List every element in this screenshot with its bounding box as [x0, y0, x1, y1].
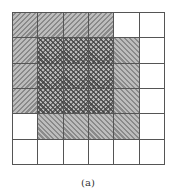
- grid-cell-cross: [64, 38, 89, 63]
- grid-cell-empty: [38, 140, 63, 165]
- grid-cell-back: [114, 114, 139, 139]
- grid-cell-cross: [38, 64, 63, 89]
- grid-cell-fwd: [38, 13, 63, 38]
- grid-cell-empty: [64, 140, 89, 165]
- grid-cell-cross: [89, 89, 114, 114]
- grid-cell-cross: [89, 38, 114, 63]
- grid-cell-empty: [140, 114, 165, 139]
- grid-cell-back: [114, 89, 139, 114]
- grid-cell-back: [114, 38, 139, 63]
- grid-cell-fwd: [13, 38, 38, 63]
- grid-cell-back: [89, 114, 114, 139]
- grid-cell-fwd: [13, 64, 38, 89]
- grid-cell-cross: [38, 89, 63, 114]
- grid-cell-cross: [89, 64, 114, 89]
- grid-cell-empty: [89, 140, 114, 165]
- grid-cell-cross: [38, 38, 63, 63]
- grid-cell-fwd: [13, 13, 38, 38]
- grid-cell-empty: [140, 140, 165, 165]
- grid-cell-back: [114, 64, 139, 89]
- grid-cell-fwd: [64, 13, 89, 38]
- grid-cell-fwd: [89, 13, 114, 38]
- grid-cell-back: [38, 114, 63, 139]
- grid-cell-cross: [64, 89, 89, 114]
- grid-cell-empty: [140, 64, 165, 89]
- grid-cell-empty: [140, 38, 165, 63]
- grid-cell-empty: [140, 13, 165, 38]
- grid-cell-empty: [13, 114, 38, 139]
- overlap-grid: [12, 12, 165, 165]
- grid-cell-empty: [114, 13, 139, 38]
- grid-cell-back: [64, 114, 89, 139]
- grid-cell-empty: [13, 140, 38, 165]
- grid-cell-cross: [64, 64, 89, 89]
- grid-cell-fwd: [13, 89, 38, 114]
- grid-cell-empty: [114, 140, 139, 165]
- grid-cell-empty: [140, 89, 165, 114]
- figure-caption: (a): [0, 177, 176, 188]
